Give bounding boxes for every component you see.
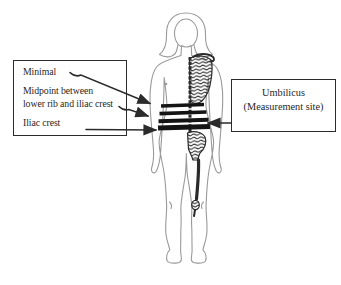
skeleton-knee bbox=[192, 200, 200, 209]
body-outline bbox=[150, 13, 223, 263]
face bbox=[175, 19, 198, 48]
arrow-iliac-crest bbox=[86, 130, 156, 131]
arrow-midpoint bbox=[119, 107, 148, 117]
human-figure-illustration bbox=[0, 0, 341, 285]
arrow-minimal bbox=[70, 73, 150, 104]
skeleton-knee-stub bbox=[194, 210, 195, 216]
waist-measurement-diagram: Minimal Midpoint between lower rib and i… bbox=[0, 0, 341, 285]
